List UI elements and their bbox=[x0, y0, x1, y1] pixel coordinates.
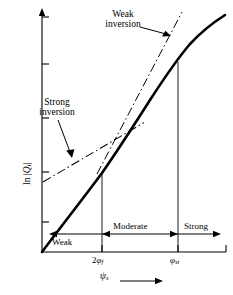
weak-inversion-line bbox=[97, 12, 182, 174]
strong-inversion-line1: Strong bbox=[44, 97, 69, 107]
strong-arrowhead bbox=[213, 231, 221, 237]
y-axis-symbol: Q bbox=[22, 166, 32, 173]
inversion-charge-curve bbox=[42, 15, 225, 252]
weak-inversion-line1: Weak bbox=[112, 9, 133, 19]
region-arrows bbox=[49, 231, 221, 237]
figure-mos-inversion-charge: Weak inversion Strong inversion Weak Mod… bbox=[0, 0, 233, 295]
annotation-strong-inversion: Strong inversion bbox=[24, 98, 90, 118]
x-axis-label: ψs bbox=[100, 272, 108, 282]
moderate-arrowhead-left bbox=[102, 231, 110, 237]
weak-inversion-line2: inversion bbox=[105, 19, 140, 29]
region-label-weak: Weak bbox=[52, 238, 72, 247]
x-axis-ticks bbox=[102, 245, 178, 252]
x-axis-label-arrow bbox=[120, 278, 163, 284]
y-axis bbox=[39, 8, 45, 252]
y-axis-arrowhead bbox=[39, 8, 45, 16]
region-label-strong: Strong bbox=[184, 222, 208, 231]
x-axis-subscript: s bbox=[106, 274, 109, 281]
x-tick-label-2phif: 2φf bbox=[92, 256, 103, 266]
chart-canvas bbox=[0, 0, 233, 295]
y-axis-prefix: ln | bbox=[22, 173, 32, 185]
y-axis-label: ln |Qi| bbox=[22, 163, 32, 185]
region-label-moderate: Moderate bbox=[113, 222, 147, 231]
tick-phist-subscript: st bbox=[175, 258, 179, 265]
moderate-arrowhead-right bbox=[170, 231, 178, 237]
annotation-weak-inversion: Weak inversion bbox=[92, 10, 154, 30]
strong-inversion-line2: inversion bbox=[39, 107, 74, 117]
x-tick-label-phist: φst bbox=[170, 256, 179, 266]
y-axis-suffix: | bbox=[22, 163, 32, 165]
strong-inversion-leader bbox=[58, 120, 74, 158]
tick-2phif-subscript: f bbox=[101, 258, 103, 265]
y-axis-ticks bbox=[42, 17, 49, 222]
